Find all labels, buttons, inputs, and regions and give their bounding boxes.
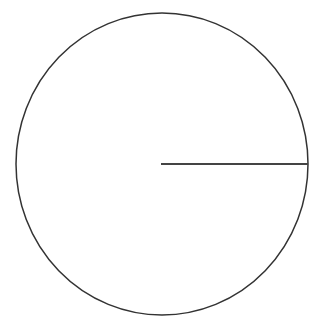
diagram-canvas: [0, 0, 319, 327]
